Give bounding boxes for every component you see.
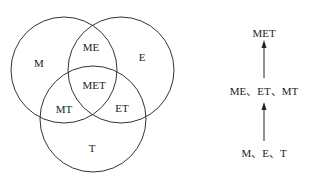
arrow-lower-head	[262, 102, 267, 110]
region-label-t: T	[89, 142, 96, 154]
region-label-met: MET	[82, 79, 105, 91]
arrow-upper-head	[262, 40, 267, 48]
region-label-m: M	[34, 57, 44, 69]
region-label-e: E	[139, 51, 146, 63]
hierarchy-bottom: M、E、T	[241, 147, 286, 159]
region-label-me: ME	[83, 41, 100, 53]
region-label-mt: MT	[56, 103, 73, 115]
hierarchy-top: MET	[252, 27, 275, 39]
region-label-et: ET	[115, 102, 128, 114]
hierarchy-middle: ME、ET、MT	[230, 85, 298, 97]
